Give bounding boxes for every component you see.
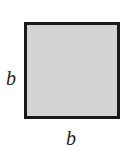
bottom-side-label: b bbox=[66, 128, 76, 148]
left-side-label: b bbox=[6, 68, 16, 88]
shaded-square bbox=[24, 22, 120, 119]
